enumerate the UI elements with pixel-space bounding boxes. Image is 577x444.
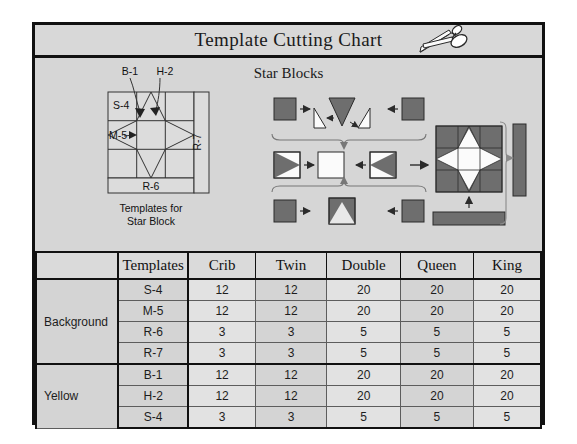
cell-crib: 3 (188, 343, 255, 365)
cell-template: S-4 (118, 279, 189, 301)
cutting-chart-table: Templates Crib Twin Double Queen King Ba… (35, 251, 542, 429)
assembly-diagram (230, 84, 530, 249)
cell-king: 5 (473, 322, 541, 343)
column-header-king: King (473, 252, 541, 279)
cell-double: 5 (327, 407, 401, 429)
cell-queen: 5 (401, 343, 474, 365)
group-label-yellow: Yellow (36, 364, 118, 428)
table-row: Yellow B-1 12 12 20 20 20 (36, 364, 541, 386)
sash-strip-horizontal (433, 212, 505, 225)
cell-twin: 12 (255, 279, 327, 301)
diagram-panel: Star Blocks (35, 58, 542, 251)
cell-template: R-7 (118, 343, 189, 365)
scissors-icon (416, 25, 476, 59)
templates-caption-line2: Star Block (127, 215, 176, 227)
cell-double: 20 (327, 301, 401, 322)
cell-double: 20 (327, 364, 401, 386)
cell-double: 20 (327, 279, 401, 301)
chart-frame: Template Cutting Chart Star Blocks (32, 22, 545, 425)
cell-queen: 20 (401, 364, 474, 386)
table-row: Background S-4 12 12 20 20 20 (36, 279, 541, 301)
sash-strip-vertical (513, 124, 526, 196)
template-label-s4: S-4 (113, 99, 130, 111)
assembled-star-block (436, 126, 502, 192)
column-header-double: Double (327, 252, 401, 279)
cell-template: M-5 (118, 301, 189, 322)
cell-king: 5 (473, 343, 541, 365)
cell-double: 5 (327, 343, 401, 365)
cell-queen: 5 (401, 322, 474, 343)
cell-template: B-1 (118, 364, 189, 386)
template-label-b1: B-1 (122, 65, 139, 77)
cell-queen: 20 (401, 386, 474, 407)
cell-king: 20 (473, 386, 541, 407)
table-header-row: Templates Crib Twin Double Queen King (36, 252, 541, 279)
column-header-twin: Twin (255, 252, 327, 279)
template-label-r7: R-7 (191, 133, 203, 150)
column-header-templates: Templates (118, 252, 189, 279)
cell-template: S-4 (118, 407, 189, 429)
cutting-chart-page: Template Cutting Chart Star Blocks (0, 0, 577, 444)
cell-king: 20 (473, 301, 541, 322)
group-label-background: Background (36, 279, 118, 364)
cell-double: 20 (327, 386, 401, 407)
column-header-group (36, 252, 118, 279)
cell-twin: 12 (255, 386, 327, 407)
column-header-queen: Queen (401, 252, 474, 279)
column-header-crib: Crib (188, 252, 255, 279)
template-label-h2: H-2 (157, 65, 174, 77)
cell-king: 20 (473, 279, 541, 301)
templates-caption-line1: Templates for (119, 202, 183, 214)
cell-queen: 20 (401, 301, 474, 322)
cell-queen: 20 (401, 279, 474, 301)
cell-crib: 3 (188, 322, 255, 343)
cell-double: 5 (327, 322, 401, 343)
cell-twin: 12 (255, 301, 327, 322)
cell-template: R-6 (118, 322, 189, 343)
cell-twin: 3 (255, 322, 327, 343)
cell-crib: 12 (188, 364, 255, 386)
cell-twin: 3 (255, 407, 327, 429)
cell-crib: 12 (188, 386, 255, 407)
cell-twin: 12 (255, 364, 327, 386)
template-label-r6: R-6 (143, 180, 160, 192)
cell-king: 20 (473, 364, 541, 386)
cell-template: H-2 (118, 386, 189, 407)
cell-crib: 12 (188, 279, 255, 301)
cell-twin: 3 (255, 343, 327, 365)
template-label-m5: M-5 (109, 129, 127, 141)
page-title: Template Cutting Chart (195, 29, 383, 51)
title-band: Template Cutting Chart (35, 25, 542, 58)
cell-crib: 12 (188, 301, 255, 322)
templates-diagram: B-1 H-2 S-4 M-5 R-6 R-7 Templates for St… (90, 64, 235, 244)
cell-king: 5 (473, 407, 541, 429)
cell-queen: 5 (401, 407, 474, 429)
cell-crib: 3 (188, 407, 255, 429)
cutting-table-wrap: Templates Crib Twin Double Queen King Ba… (35, 251, 542, 422)
